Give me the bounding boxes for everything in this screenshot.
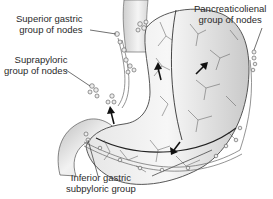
label-suprapyloric-line1: Suprapyloric — [4, 54, 67, 65]
label-inferior-gastric-line1: Inferior gastric — [66, 172, 136, 183]
label-pancreaticolienal-line2: group of nodes — [194, 14, 266, 25]
label-superior-gastric-line1: Superior gastric — [16, 13, 83, 24]
label-inferior-gastric-line2: subpyloric group — [66, 183, 136, 194]
label-pancreaticolienal-line1: Pancreaticolienal — [194, 3, 266, 14]
label-suprapyloric-line2: group of nodes — [4, 65, 67, 76]
label-pancreaticolienal: Pancreaticolienal group of nodes — [194, 3, 266, 25]
label-inferior-gastric: Inferior gastric subpyloric group — [66, 172, 136, 194]
label-superior-gastric: Superior gastric group of nodes — [16, 13, 83, 35]
label-suprapyloric: Suprapyloric group of nodes — [4, 54, 67, 76]
label-superior-gastric-line2: group of nodes — [16, 24, 83, 35]
